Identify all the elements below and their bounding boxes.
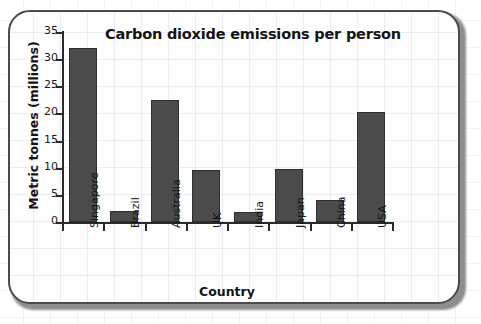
x-axis-category-label: India (253, 201, 266, 228)
x-axis-category-label: Brazil (129, 197, 142, 228)
x-axis-tick-mark (268, 224, 270, 231)
x-axis-tick-mark (351, 224, 353, 231)
x-axis-category-label: UK (211, 213, 224, 228)
x-axis-category-label: China (335, 197, 348, 228)
y-axis-tick-label: 10 (44, 160, 58, 173)
x-axis-category-label: Japan (294, 197, 307, 228)
x-axis-tick-mark (186, 224, 188, 231)
x-axis-tick-mark (103, 224, 105, 231)
x-axis-tick-mark (227, 224, 229, 231)
y-axis-tick-label: 35 (44, 24, 58, 37)
y-axis-tick-label: 15 (44, 133, 58, 146)
bar-chart: Carbon dioxide emissions per person Metr… (0, 0, 481, 324)
y-axis-tick-label: 25 (44, 78, 58, 91)
x-axis-category-label: USA (376, 205, 389, 228)
x-axis-tick-mark (392, 224, 394, 231)
x-axis-category-label: Australia (170, 179, 183, 228)
y-axis-tick-label: 0 (51, 214, 58, 227)
x-axis-category-label: Singapore (88, 173, 101, 229)
y-axis-title: Metric tonnes (millions) (26, 31, 41, 221)
x-axis-tick-mark (310, 224, 312, 231)
y-axis-tick-label: 30 (44, 51, 58, 64)
plot-area (62, 32, 392, 222)
x-axis-title: Country (62, 284, 392, 299)
y-axis-tick-label: 5 (51, 187, 58, 200)
y-axis-tick-label: 20 (44, 105, 58, 118)
chart-page: Carbon dioxide emissions per person Metr… (0, 0, 481, 324)
x-axis-tick-mark (62, 224, 64, 231)
x-axis-tick-mark (145, 224, 147, 231)
